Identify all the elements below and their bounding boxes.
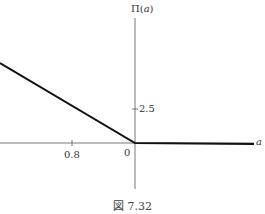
figure-caption: 図 7.32 [0,197,265,213]
y-axis-label-close: ) [150,3,154,14]
y-axis-label-text: Π( [131,3,144,14]
x-tick-label-0: 0 [124,147,130,158]
y-tick-label-2.5: 2.5 [139,103,155,114]
x-tick-label-0.8: 0.8 [64,149,80,160]
y-axis-label: Π(a) [131,3,154,14]
pi-function-curve [0,63,254,144]
chart-plot-area [0,0,265,214]
x-axis-label: a [256,136,262,147]
